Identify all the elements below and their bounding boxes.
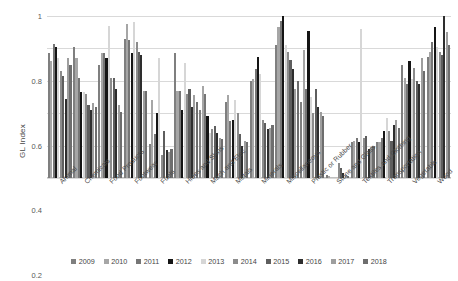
legend-label: 2017 (338, 258, 354, 265)
legend-item[interactable]: 2015 (266, 258, 290, 265)
bar (69, 65, 71, 178)
legend-item[interactable]: 2009 (71, 258, 95, 265)
bar-group (72, 16, 97, 178)
legend-label: 2015 (273, 258, 289, 265)
legend-swatch-icon (201, 259, 206, 264)
y-axis-tick-label: 1 (38, 12, 42, 21)
y-axis-tick-label: 0.4 (32, 206, 42, 215)
bar-group (274, 16, 299, 178)
legend-swatch-icon (233, 259, 238, 264)
legend-label: 2016 (306, 258, 322, 265)
legend-label: 2010 (111, 258, 127, 265)
legend-swatch-icon (71, 259, 76, 264)
legend-swatch-icon (363, 259, 368, 264)
x-axis-category-labels: AnimalChemicalsFood ProductsFootwearFuel… (47, 180, 451, 242)
legend-swatch-icon (168, 259, 173, 264)
bar (297, 81, 299, 178)
bar (328, 176, 330, 178)
bar-group (249, 16, 274, 178)
gl-index-bar-chart: GL Index 00.20.40.60.81 AnimalChemicalsF… (0, 0, 458, 281)
bar (448, 45, 450, 178)
legend-item[interactable]: 2014 (233, 258, 257, 265)
legend-item[interactable]: 2017 (331, 258, 355, 265)
chart-legend: 2009201020112012201320142015201620172018 (0, 258, 458, 265)
legend-item[interactable]: 2013 (201, 258, 225, 265)
bar-group (98, 16, 123, 178)
bar-group (426, 16, 451, 178)
legend-item[interactable]: 2010 (104, 258, 128, 265)
legend-item[interactable]: 2018 (363, 258, 387, 265)
y-axis-label: GL Index (18, 124, 27, 158)
bar (423, 71, 425, 178)
y-axis-tick-label: 0.6 (32, 141, 42, 150)
bar-group (47, 16, 72, 178)
y-axis-tick-label: 0.8 (32, 76, 42, 85)
legend-label: 2012 (176, 258, 192, 265)
legend-label: 2018 (371, 258, 387, 265)
legend-label: 2013 (208, 258, 224, 265)
legend-label: 2014 (241, 258, 257, 265)
legend-item[interactable]: 2012 (168, 258, 192, 265)
legend-swatch-icon (136, 259, 141, 264)
bar-group (148, 16, 173, 178)
legend-label: 2009 (79, 258, 95, 265)
legend-item[interactable]: 2011 (136, 258, 159, 265)
legend-label: 2011 (144, 258, 159, 265)
y-axis-tick-label: 0.2 (32, 271, 42, 280)
legend-item[interactable]: 2016 (298, 258, 322, 265)
legend-swatch-icon (298, 259, 303, 264)
legend-swatch-icon (266, 259, 271, 264)
bar-group (173, 16, 198, 178)
legend-swatch-icon (104, 259, 109, 264)
legend-swatch-icon (331, 259, 336, 264)
